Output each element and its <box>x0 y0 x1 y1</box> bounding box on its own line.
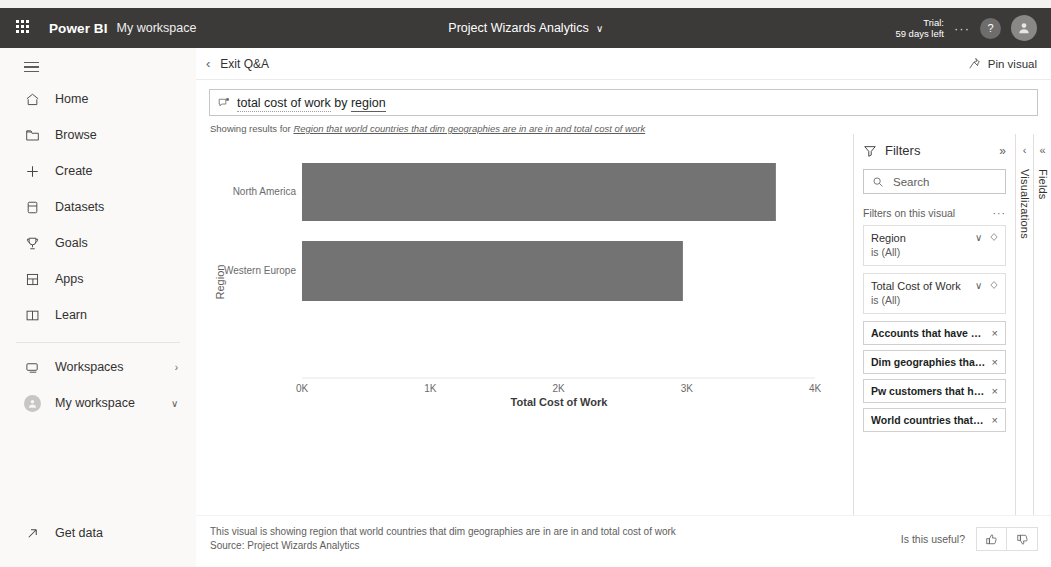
expand-fields-icon[interactable]: « <box>1039 144 1045 156</box>
trial-days-left: 59 days left <box>895 28 944 40</box>
fields-pane-label: Fields <box>1037 169 1049 200</box>
x-axis-label: Total Cost of Work <box>511 396 609 408</box>
sidebar-item-create[interactable]: Create <box>0 153 196 189</box>
filter-pill-label: Dim geographies that ha... <box>871 356 986 368</box>
visual-description: This visual is showing region that world… <box>210 525 676 553</box>
x-axis-tick-labels: 0K1K2K3K4K <box>296 383 822 394</box>
close-icon[interactable]: × <box>986 356 998 368</box>
expand-visualizations-icon[interactable]: ‹ <box>1023 144 1027 156</box>
thumbs-up-button[interactable] <box>976 527 1007 551</box>
visualizations-pane-label: Visualizations <box>1019 169 1031 239</box>
left-navigation: Home Browse Create Datasets Goals <box>0 48 196 567</box>
plus-icon <box>24 163 41 180</box>
get-data-arrow-icon <box>24 525 41 542</box>
sidebar-item-label: Apps <box>55 272 84 286</box>
sidebar-item-label: Learn <box>55 308 87 322</box>
learn-book-icon <box>24 307 41 324</box>
filters-section-menu-icon[interactable]: ··· <box>993 207 1007 219</box>
filter-pill-dim-geographies[interactable]: Dim geographies that ha... × <box>863 350 1006 374</box>
close-icon[interactable]: × <box>986 385 998 397</box>
visualizations-pane-collapsed[interactable]: ‹ Visualizations <box>1015 134 1033 515</box>
bar-chart-visual[interactable]: Region North America Western Europe 0K1K… <box>196 134 853 515</box>
y-axis-tick-label: Western Europe <box>224 265 297 276</box>
filter-card-icons: ∨ <box>975 232 999 243</box>
sidebar-item-apps[interactable]: Apps <box>0 261 196 297</box>
sidebar-item-label: Goals <box>55 236 88 250</box>
workspaces-icon <box>24 359 41 376</box>
sidebar-spacer <box>0 421 196 515</box>
qna-question-input[interactable]: total cost of work by region <box>209 89 1038 116</box>
showing-results-phrase[interactable]: Region that world countries that dim geo… <box>293 123 645 134</box>
sidebar-item-label: Workspaces <box>55 360 124 374</box>
sidebar-item-get-data[interactable]: Get data <box>0 515 196 551</box>
filters-pane: Filters » Search Filters on this visual … <box>853 134 1015 515</box>
report-title-text[interactable]: Project Wizards Analytics <box>448 21 588 35</box>
sidebar-item-workspaces[interactable]: Workspaces › <box>0 349 196 385</box>
breadcrumb-workspace[interactable]: My workspace <box>117 21 197 35</box>
workspace-avatar-icon <box>24 395 41 412</box>
filter-card-region[interactable]: Region is (All) ∨ <box>863 225 1006 266</box>
sidebar-item-goals[interactable]: Goals <box>0 225 196 261</box>
filter-pill-world-countries[interactable]: World countries that dim... × <box>863 408 1006 432</box>
power-bi-app: Power BI My workspace Project Wizards An… <box>0 0 1051 567</box>
hide-filter-icon[interactable] <box>989 280 999 290</box>
feedback-label: Is this useful? <box>901 533 965 545</box>
x-axis-tick-label: 2K <box>552 383 565 394</box>
avatar[interactable] <box>1011 15 1037 41</box>
filters-header: Filters » <box>863 143 1006 158</box>
filters-search-input[interactable]: Search <box>863 169 1006 194</box>
qna-toolbar: ‹ Exit Q&A Pin visual <box>196 48 1051 80</box>
close-icon[interactable]: × <box>986 414 998 426</box>
app-launcher-icon[interactable] <box>16 20 32 36</box>
chevron-down-icon[interactable]: ∨ <box>975 232 982 243</box>
filter-pill-label: World countries that dim... <box>871 414 986 426</box>
expand-filters-icon[interactable]: » <box>999 144 1006 158</box>
sidebar-item-home[interactable]: Home <box>0 81 196 117</box>
more-options-icon[interactable]: ··· <box>954 21 970 36</box>
exit-qna-label: Exit Q&A <box>220 57 269 71</box>
trial-status[interactable]: Trial: 59 days left <box>895 17 944 40</box>
filter-funnel-icon <box>863 144 877 158</box>
qna-measure-term: total cost of work <box>237 96 331 112</box>
filter-pill-pw-customers[interactable]: Pw customers that have ... × <box>863 379 1006 403</box>
brand-power-bi[interactable]: Power BI <box>49 21 108 36</box>
chevron-down-icon[interactable]: ∨ <box>596 23 603 34</box>
exit-qna-button[interactable]: ‹ Exit Q&A <box>206 56 269 71</box>
help-icon[interactable]: ? <box>980 18 1001 39</box>
thumbs-down-icon <box>1016 533 1029 546</box>
divider <box>16 342 180 343</box>
qna-input-wrapper: total cost of work by region <box>196 80 1051 116</box>
chart-canvas: Region North America Western Europe 0K1K… <box>196 134 835 483</box>
trial-label: Trial: <box>895 17 944 29</box>
x-axis-tick-label: 3K <box>681 383 694 394</box>
sidebar-item-datasets[interactable]: Datasets <box>0 189 196 225</box>
chevron-right-icon: › <box>175 362 178 373</box>
chevron-down-icon[interactable]: ∨ <box>975 280 982 291</box>
goals-trophy-icon <box>24 235 41 252</box>
bar-western-europe[interactable] <box>302 241 683 301</box>
filter-card-total-cost-of-work[interactable]: Total Cost of Work is (All) ∨ <box>863 273 1006 314</box>
hamburger-icon[interactable] <box>24 62 39 75</box>
fields-pane-collapsed[interactable]: « Fields <box>1033 134 1051 515</box>
thumbs-up-icon <box>985 533 998 546</box>
x-axis-tick-label: 1K <box>424 383 437 394</box>
y-axis-tick-label: North America <box>233 186 297 197</box>
sidebar-item-browse[interactable]: Browse <box>0 117 196 153</box>
sidebar-item-learn[interactable]: Learn <box>0 297 196 333</box>
chevron-down-icon: ∨ <box>171 398 178 409</box>
qna-canvas: ‹ Exit Q&A Pin visual total cost of work… <box>196 48 1051 567</box>
sidebar-item-label: My workspace <box>55 396 135 410</box>
sidebar-item-my-workspace[interactable]: My workspace ∨ <box>0 385 196 421</box>
pin-visual-button[interactable]: Pin visual <box>968 57 1037 70</box>
filter-pill-accounts[interactable]: Accounts that have dim ... × <box>863 321 1006 345</box>
close-icon[interactable]: × <box>986 327 998 339</box>
sidebar-item-label: Create <box>55 164 93 178</box>
visual-description-line: This visual is showing region that world… <box>210 525 676 539</box>
hide-filter-icon[interactable] <box>989 232 999 242</box>
showing-results-prefix: Showing results for <box>210 123 293 134</box>
bar-north-america[interactable] <box>302 163 776 221</box>
thumbs-down-button[interactable] <box>1007 527 1038 551</box>
filter-card-value: is (All) <box>871 293 998 307</box>
visual-and-panes-row: Region North America Western Europe 0K1K… <box>196 134 1051 515</box>
qna-connector: by <box>331 96 351 110</box>
